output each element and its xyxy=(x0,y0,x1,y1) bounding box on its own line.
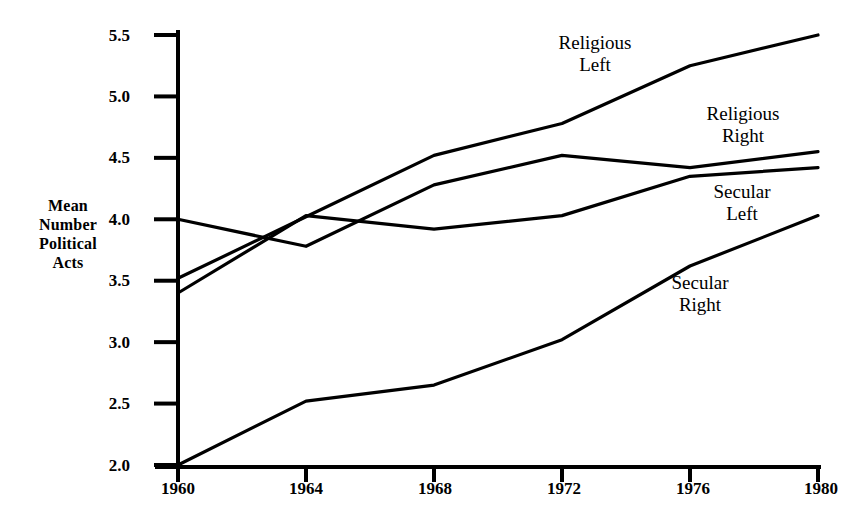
series-line-secular-right xyxy=(178,216,818,465)
y-tick-marks xyxy=(154,35,178,465)
plot-area xyxy=(0,0,854,522)
series-line-secular-left xyxy=(178,168,818,293)
x-tick-marks xyxy=(178,467,818,482)
series-line-religious-left xyxy=(178,35,818,278)
series-lines-group xyxy=(178,35,818,465)
chart-figure: Mean Number Political Acts 5.5 5.0 4.5 4… xyxy=(0,0,854,522)
axes-group xyxy=(155,30,821,470)
